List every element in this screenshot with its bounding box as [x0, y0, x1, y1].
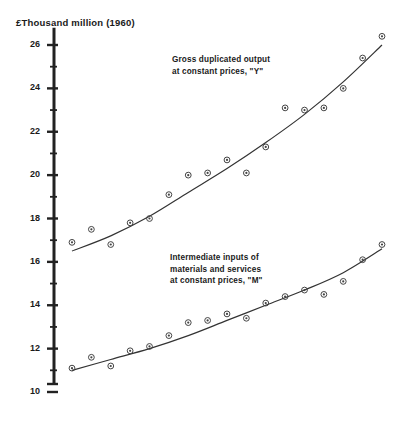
y-tick-label: 24: [18, 82, 40, 92]
data-point-center: [362, 57, 364, 59]
y-tick-label: 18: [18, 213, 40, 223]
data-point-center: [129, 222, 131, 224]
y-tick-label: 12: [18, 343, 40, 353]
data-point-center: [284, 107, 286, 109]
fit-curves: [72, 45, 382, 370]
data-point-center: [129, 350, 131, 352]
data-point-center: [207, 172, 209, 174]
data-point-center: [226, 313, 228, 315]
y-tick-label: 14: [18, 299, 40, 309]
data-point-center: [90, 228, 92, 230]
y-tick-label: 22: [18, 126, 40, 136]
data-point-center: [342, 87, 344, 89]
fit-curve-series-0: [72, 45, 382, 251]
data-point-center: [245, 172, 247, 174]
data-point-center: [303, 109, 305, 111]
data-point-center: [265, 146, 267, 148]
data-point-center: [71, 367, 73, 369]
plot-area: [0, 0, 407, 422]
data-point-center: [381, 243, 383, 245]
data-point-center: [187, 322, 189, 324]
data-point-center: [226, 159, 228, 161]
data-point-center: [148, 217, 150, 219]
y-tick-label: 20: [18, 169, 40, 179]
fit-curve-series-1: [72, 249, 382, 370]
data-point-center: [284, 295, 286, 297]
data-point-center: [342, 280, 344, 282]
data-point-center: [90, 356, 92, 358]
data-point-center: [207, 319, 209, 321]
y-tick-label: 16: [18, 256, 40, 266]
y-axis: [47, 28, 58, 392]
data-point-center: [71, 241, 73, 243]
data-point-center: [323, 107, 325, 109]
y-tick-label: 10: [18, 386, 40, 396]
data-point-center: [168, 194, 170, 196]
data-point-center: [381, 35, 383, 37]
chart-page: £Thousand million (1960) Gross duplicate…: [0, 0, 407, 422]
data-point-center: [148, 345, 150, 347]
data-point-center: [110, 365, 112, 367]
data-point-center: [245, 317, 247, 319]
data-point-center: [303, 289, 305, 291]
data-point-center: [110, 243, 112, 245]
data-point-center: [362, 259, 364, 261]
y-tick-label: 26: [18, 39, 40, 49]
data-point-center: [187, 174, 189, 176]
data-point-center: [168, 335, 170, 337]
data-point-center: [265, 302, 267, 304]
data-point-center: [323, 293, 325, 295]
